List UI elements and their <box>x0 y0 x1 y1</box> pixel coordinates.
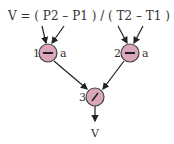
edge-p1-to-node1 <box>52 26 64 43</box>
node-label: 3 <box>79 91 86 104</box>
edge-t1-to-node2 <box>134 26 143 43</box>
edge-t2-to-node2 <box>118 26 127 43</box>
node-label: 2 <box>114 47 121 60</box>
formula-text: V = ( P2 – P1 ) / ( T2 – T1 ) <box>7 9 170 23</box>
edge-node2-to-node3 <box>103 61 124 89</box>
node-1: 1 a <box>33 44 67 62</box>
dataflow-diagram: V = ( P2 – P1 ) / ( T2 – T1 ) 1 a 2 a 3 … <box>0 0 174 144</box>
edge-node1-to-node3 <box>54 61 87 89</box>
node-2: 2 a <box>114 44 149 62</box>
node-label: 1 <box>33 47 40 60</box>
node-3: 3 <box>79 88 104 106</box>
node-annotation: a <box>60 47 67 60</box>
node-annotation: a <box>142 47 149 60</box>
output-label: V <box>90 127 100 140</box>
edge-p2-to-node1 <box>42 26 46 43</box>
